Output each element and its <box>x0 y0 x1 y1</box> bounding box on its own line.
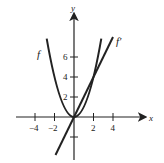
xtick-label: 4 <box>111 123 116 133</box>
x-axis-label: x <box>148 113 153 123</box>
ytick-label: 4 <box>63 72 68 82</box>
ytick-label: 6 <box>63 52 68 62</box>
label-f: f <box>37 48 42 60</box>
y-axis-label: y <box>70 3 75 13</box>
xtick-label: −2 <box>48 123 58 133</box>
xtick-label: 2 <box>91 123 96 133</box>
xtick-label: −4 <box>29 123 39 133</box>
label-fprime: f′ <box>116 35 122 47</box>
ytick-label: 2 <box>63 92 68 102</box>
function-plot: −4 −2 2 4 6 4 2 x y f f′ <box>0 0 164 163</box>
